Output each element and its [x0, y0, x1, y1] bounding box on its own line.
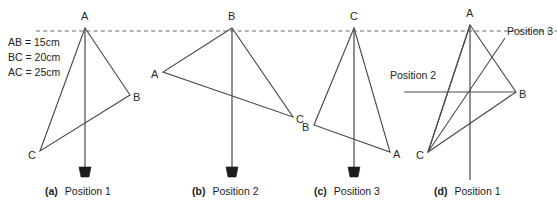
side-length-legend: AB = 15cm BC = 20cm AC = 25cm: [8, 35, 60, 80]
panel-b-tag: (b): [192, 185, 205, 197]
panel-a-caption-text: Position 1: [65, 185, 111, 197]
panel-c-caption: (c)Position 3: [314, 186, 380, 197]
panel-b-caption: (b)Position 2: [192, 186, 259, 197]
panel-c-caption-text: Position 3: [334, 185, 380, 197]
panel-b-vertex-label-b: B: [228, 11, 235, 22]
panel-b-triangle: [163, 28, 293, 117]
legend-line-ac: AC = 25cm: [8, 65, 60, 80]
panel-d-annotation-position-2: Position 2: [390, 70, 436, 81]
panel-a-tag: (a): [45, 185, 58, 197]
panel-d-vertex-label-a: A: [466, 8, 473, 19]
panel-a-vertex-label-b: B: [133, 92, 140, 103]
panel-d-vertex-label-b: B: [519, 89, 526, 100]
panel-d-annotation-position-3: Position 3: [507, 26, 553, 37]
plumb-bob-triangle-figure: AB = 15cm BC = 20cm AC = 25cm A B C B A …: [0, 0, 557, 208]
panel-b-plumb-bob-weight: [226, 167, 238, 177]
legend-line-bc: BC = 20cm: [8, 50, 60, 65]
panel-d-caption-text: Position 1: [454, 185, 500, 197]
panel-d-position-3-leader-line: [428, 38, 505, 152]
panel-c-vertex-label-c: C: [350, 11, 358, 22]
panel-d-tag: (d): [434, 185, 447, 197]
panel-c-diagram: [314, 28, 390, 177]
panel-c-triangle: [314, 28, 390, 152]
panel-d-caption: (d)Position 1: [434, 186, 501, 197]
panel-a-vertex-label-c: C: [28, 150, 36, 161]
panel-b-caption-text: Position 2: [212, 185, 258, 197]
panel-c-vertex-label-a: A: [393, 149, 400, 160]
panel-a-vertex-label-a: A: [81, 11, 88, 22]
legend-line-ab: AB = 15cm: [8, 35, 60, 50]
panel-c-vertex-label-b: B: [302, 122, 309, 133]
figure-vector-canvas: [0, 0, 557, 208]
panel-c-plumb-bob-weight: [348, 167, 360, 177]
panel-b-diagram: [163, 28, 293, 177]
panel-d-vertex-label-c: C: [416, 150, 424, 161]
panel-b-vertex-label-a: A: [151, 69, 158, 80]
panel-d-edge-apex-to-c: [428, 25, 470, 152]
panel-c-tag: (c): [314, 185, 327, 197]
panel-a-plumb-bob-weight: [79, 167, 91, 177]
panel-a-caption: (a)Position 1: [45, 186, 111, 197]
